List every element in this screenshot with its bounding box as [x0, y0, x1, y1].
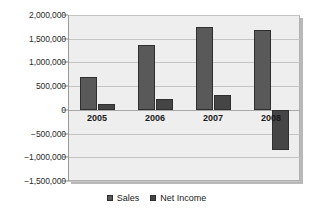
gridline: [68, 181, 300, 182]
x-axis-label-2006: 2006: [145, 113, 165, 123]
gridline: [68, 157, 300, 158]
y-axis-tick-label: 500,000: [6, 81, 66, 91]
bar-sales-2008: [254, 30, 271, 110]
x-axis-label-2007: 2007: [203, 113, 223, 123]
bar-net-income-2005: [98, 104, 115, 110]
legend-label-sales: Sales: [117, 193, 140, 203]
legend-item-sales[interactable]: Sales: [107, 193, 140, 203]
bar-net-income-2007: [214, 95, 231, 110]
y-axis-tick-label: −1,500,000: [6, 176, 66, 186]
bar-sales-2007: [196, 27, 213, 110]
zero-line: [68, 110, 300, 111]
legend-item-net-income[interactable]: Net Income: [150, 193, 206, 203]
y-axis-tick-label: 2,000,000: [6, 10, 66, 20]
y-axis-tick-label: −500,000: [6, 129, 66, 139]
bar-sales-2006: [138, 45, 155, 110]
y-axis-line: [68, 15, 69, 181]
x-axis-label-2005: 2005: [87, 113, 107, 123]
legend-swatch-sales-icon: [107, 195, 113, 201]
bar-chart: 2,000,0001,500,0001,000,000500,0000−500,…: [0, 0, 313, 214]
gridline: [68, 15, 300, 16]
x-axis-label-2008: 2008: [261, 113, 281, 123]
bar-net-income-2006: [156, 99, 173, 110]
chart-legend: Sales Net Income: [0, 193, 313, 203]
legend-swatch-net-income-icon: [150, 195, 156, 201]
legend-label-net-income: Net Income: [160, 193, 206, 203]
y-axis-tick-label: 1,000,000: [6, 57, 66, 67]
gridline: [68, 134, 300, 135]
y-axis-tick-label: 0: [6, 105, 66, 115]
y-axis-tick-label: 1,500,000: [6, 34, 66, 44]
bar-sales-2005: [80, 77, 97, 110]
y-axis-tick-label: −1,000,000: [6, 152, 66, 162]
